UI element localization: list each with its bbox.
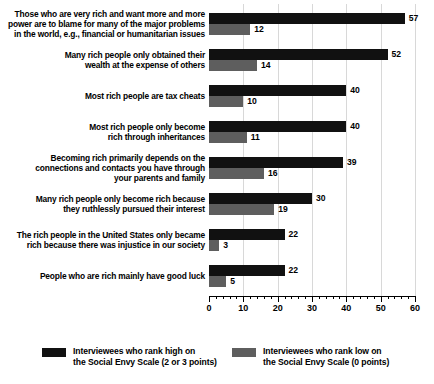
chart-legend: Interviewees who rank high on the Social…	[0, 336, 434, 384]
bar-value-label: 22	[289, 265, 299, 276]
bar-high	[209, 85, 346, 96]
x-tick-minor-52	[388, 296, 389, 299]
x-tick-minor-28	[305, 296, 306, 299]
bar-value-label: 22	[289, 229, 299, 240]
category-label: Most rich people only become rich throug…	[5, 122, 205, 142]
x-tick-minor-2	[216, 296, 217, 299]
x-tick-label: 30	[307, 303, 317, 313]
x-tick-minor-26	[298, 296, 299, 299]
bar-high	[209, 229, 285, 240]
bar-low	[209, 96, 243, 107]
x-tick-label: 20	[273, 303, 283, 313]
x-tick-minor-36	[333, 296, 334, 299]
bar-row: Those who are very rich and want more an…	[0, 12, 434, 48]
grouped-bar-chart: Those who are very rich and want more an…	[0, 0, 434, 384]
x-tick-minor-16	[264, 296, 265, 299]
bar-high	[209, 49, 388, 60]
bar-value-label: 39	[347, 157, 357, 168]
bar-row: The rich people in the United States onl…	[0, 228, 434, 264]
x-tick-major-0	[209, 296, 210, 302]
x-tick-minor-12	[250, 296, 251, 299]
bar-high	[209, 193, 312, 204]
x-tick-major-10	[243, 296, 244, 302]
x-tick-minor-48	[374, 296, 375, 299]
x-tick-major-20	[278, 296, 279, 302]
bar-low	[209, 60, 257, 71]
legend-swatch-low-icon	[232, 348, 256, 357]
legend-label-low: Interviewees who rank low on the Social …	[263, 346, 389, 368]
bar-row: Most rich people are tax cheats4010	[0, 84, 434, 120]
legend-item-low: Interviewees who rank low on the Social …	[232, 346, 389, 368]
x-tick-major-40	[346, 296, 347, 302]
bar-value-label: 14	[261, 60, 271, 71]
plot-area: Those who are very rich and want more an…	[0, 0, 434, 300]
x-tick-major-50	[381, 296, 382, 302]
x-tick-minor-8	[236, 296, 237, 299]
x-tick-major-30	[312, 296, 313, 302]
x-tick-minor-14	[257, 296, 258, 299]
bar-low	[209, 204, 274, 215]
bar-row: Many rich people only become rich becaus…	[0, 192, 434, 228]
bar-value-label: 57	[409, 13, 419, 24]
x-tick-minor-32	[319, 296, 320, 299]
bar-row: Becoming rich primarily depends on the c…	[0, 156, 434, 192]
category-label: Those who are very rich and want more an…	[5, 9, 205, 40]
x-tick-minor-38	[339, 296, 340, 299]
bar-value-label: 3	[223, 240, 228, 251]
bar-value-label: 5	[230, 276, 235, 287]
bar-value-label: 10	[247, 96, 257, 107]
category-label: The rich people in the United States onl…	[5, 230, 205, 250]
x-tick-label: 40	[341, 303, 351, 313]
bar-value-label: 19	[278, 204, 288, 215]
x-tick-minor-24	[291, 296, 292, 299]
bar-row: People who are rich mainly have good luc…	[0, 264, 434, 300]
x-tick-minor-22	[285, 296, 286, 299]
bar-value-label: 12	[254, 24, 264, 35]
legend-swatch-high-icon	[42, 348, 66, 357]
x-tick-label: 60	[410, 303, 420, 313]
x-tick-minor-54	[394, 296, 395, 299]
x-tick-label: 10	[238, 303, 248, 313]
bar-row: Most rich people only become rich throug…	[0, 120, 434, 156]
bar-low	[209, 168, 264, 179]
bar-low	[209, 132, 247, 143]
bar-low	[209, 240, 219, 251]
bar-high	[209, 265, 285, 276]
bar-high	[209, 157, 343, 168]
x-axis: 0102030405060	[209, 296, 415, 324]
x-tick-label: 0	[206, 303, 211, 313]
x-tick-minor-6	[230, 296, 231, 299]
bar-high	[209, 13, 405, 24]
x-tick-minor-34	[326, 296, 327, 299]
bar-value-label: 11	[251, 132, 260, 143]
bar-low	[209, 276, 226, 287]
category-label: Most rich people are tax cheats	[5, 91, 205, 101]
x-tick-label: 50	[376, 303, 386, 313]
legend-label-high: Interviewees who rank high on the Social…	[73, 346, 217, 368]
bar-low	[209, 24, 250, 35]
bar-row: Many rich people only obtained their wea…	[0, 48, 434, 84]
bar-value-label: 40	[350, 121, 360, 132]
x-tick-minor-46	[367, 296, 368, 299]
x-tick-minor-44	[360, 296, 361, 299]
legend-item-high: Interviewees who rank high on the Social…	[42, 346, 217, 368]
x-tick-minor-18	[271, 296, 272, 299]
x-tick-minor-4	[223, 296, 224, 299]
x-tick-minor-58	[408, 296, 409, 299]
x-tick-major-60	[415, 296, 416, 302]
bar-value-label: 40	[350, 85, 360, 96]
x-tick-minor-42	[353, 296, 354, 299]
category-label: Many rich people only become rich becaus…	[5, 194, 205, 214]
category-label: Many rich people only obtained their wea…	[5, 50, 205, 70]
bar-value-label: 30	[316, 193, 326, 204]
bar-high	[209, 121, 346, 132]
bar-value-label: 16	[268, 168, 278, 179]
x-tick-minor-56	[401, 296, 402, 299]
category-label: Becoming rich primarily depends on the c…	[5, 153, 205, 184]
bar-value-label: 52	[392, 49, 402, 60]
category-label: People who are rich mainly have good luc…	[5, 271, 205, 281]
